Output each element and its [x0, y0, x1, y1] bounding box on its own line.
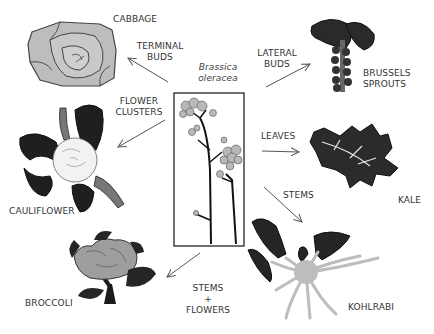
label-broccoli: BROCCOLI: [25, 298, 73, 309]
terminal-buds-line2: BUDS: [132, 52, 188, 63]
brussels-line1: BRUSSELS: [363, 68, 411, 79]
label-terminal-buds: TERMINAL BUDS: [132, 41, 188, 63]
species-genus: Brassica: [188, 62, 248, 73]
lateral-buds-line2: BUDS: [252, 59, 302, 70]
species-epithet: oleracea: [188, 73, 248, 84]
arrow-leaves: [262, 151, 299, 152]
lateral-buds-line1: LATERAL: [252, 48, 302, 59]
cauliflower-illustration: [20, 105, 124, 212]
stems-flowers-line1: STEMS: [183, 283, 233, 294]
broccoli-illustration: [69, 231, 156, 304]
stems-flowers-line3: FLOWERS: [183, 305, 233, 316]
label-leaves: LEAVES: [261, 131, 295, 142]
arrow-flower-clusters: [118, 120, 165, 147]
label-lateral-buds: LATERAL BUDS: [252, 48, 302, 70]
terminal-buds-line1: TERMINAL: [132, 41, 188, 52]
arrow-stems-flowers: [167, 253, 200, 277]
center-plant-box: [174, 93, 244, 246]
label-stems-flowers: STEMS + FLOWERS: [183, 283, 233, 316]
brussels-line2: SPROUTS: [363, 79, 411, 90]
label-cauliflower: CAULIFLOWER: [9, 206, 75, 217]
label-flower-clusters: FLOWER CLUSTERS: [110, 96, 168, 118]
kale-illustration: [310, 124, 398, 188]
cabbage-illustration: [28, 22, 116, 86]
stems-flowers-line2: +: [183, 294, 233, 305]
label-kale: KALE: [398, 195, 421, 206]
label-cabbage: CABBAGE: [113, 14, 157, 25]
label-kohlrabi: KOHLRABI: [348, 302, 394, 313]
species-label: Brassica oleracea: [188, 62, 248, 84]
flower-clusters-line2: CLUSTERS: [110, 107, 168, 118]
label-brussels-sprouts: BRUSSELS SPROUTS: [363, 68, 411, 90]
label-stems: STEMS: [283, 190, 314, 201]
flower-clusters-line1: FLOWER: [110, 96, 168, 107]
